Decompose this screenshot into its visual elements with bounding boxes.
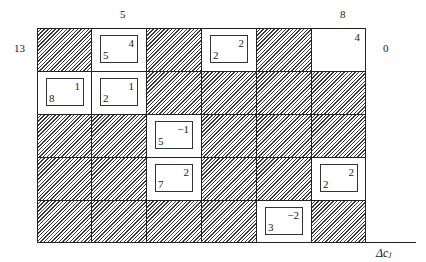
grid-cell-r1-c2 [147,72,202,115]
top-right-value: 2 [349,166,355,178]
delta-c-label: Δcⱼ [376,246,392,261]
bottom-left-value: 7 [158,178,164,190]
axis-line [366,242,416,243]
grid-cell-r4-c3 [202,201,257,242]
grid-cell-r4-c1 [92,201,147,242]
value-box: 12 [100,78,138,106]
grid-cell-r0-c1: 45 [92,29,147,72]
grid-cell-r3-c1 [92,158,147,201]
bottom-left-value: 2 [323,178,329,190]
grid-cell-r1-c3 [202,72,257,115]
top-label-col-5: 8 [340,8,346,20]
grid-cell-r3-c4 [257,158,312,201]
right-label-row-0: 0 [383,42,389,54]
top-right-value: 1 [129,80,135,92]
value-box: 22 [320,164,358,192]
value-box: 45 [100,35,138,63]
grid-cell-r3-c2: 27 [147,158,202,201]
top-right-value: 4 [355,31,361,43]
grid-cell-r4-c5 [312,201,365,242]
top-label-col-1: 5 [120,8,126,20]
tableau-grid: 452241812−152722−23 [37,28,366,243]
top-right-value: −2 [287,209,299,221]
grid-cell-r0-c5: 4 [312,29,365,72]
value-box: 18 [46,78,84,106]
grid-cell-r0-c3: 22 [202,29,257,72]
grid-cell-r4-c4: −23 [257,201,312,242]
grid-cell-r1-c0: 18 [38,72,92,115]
top-right-value: −1 [177,123,189,135]
grid-cell-r0-c0 [38,29,92,72]
grid-cell-r3-c3 [202,158,257,201]
grid-cell-r2-c3 [202,115,257,158]
grid-cell-r0-c4 [257,29,312,72]
grid-cell-r2-c2: −15 [147,115,202,158]
value-box: −15 [155,121,193,149]
top-right-value: 2 [184,166,190,178]
grid-cell-r3-c0 [38,158,92,201]
grid-cell-r0-c2 [147,29,202,72]
grid-cell-r2-c1 [92,115,147,158]
bottom-left-value: 3 [268,221,274,233]
top-right-value: 4 [129,37,135,49]
grid-cell-r1-c4 [257,72,312,115]
grid-cell-r4-c2 [147,201,202,242]
top-right-value: 1 [75,80,81,92]
grid-cell-r2-c0 [38,115,92,158]
bottom-left-value: 5 [103,49,109,61]
bottom-left-value: 5 [158,135,164,147]
top-right-value: 2 [239,37,245,49]
bottom-left-value: 2 [103,92,109,104]
grid-cell-r2-c4 [257,115,312,158]
grid-cell-r1-c5 [312,72,365,115]
grid-cell-r1-c1: 12 [92,72,147,115]
bottom-left-value: 8 [49,92,55,104]
bottom-left-value: 2 [213,49,219,61]
left-label-row-0: 13 [14,42,25,54]
value-box: 22 [210,35,248,63]
value-box: −23 [265,207,303,235]
grid-cell-r3-c5: 22 [312,158,365,201]
value-box: 27 [155,164,193,192]
grid-cell-r2-c5 [312,115,365,158]
grid-cell-r4-c0 [38,201,92,242]
